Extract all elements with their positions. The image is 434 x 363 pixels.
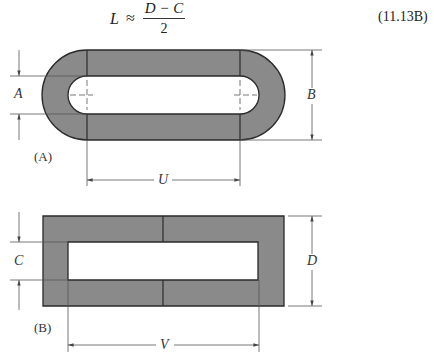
core-diagrams (0, 0, 434, 363)
label-v: V (160, 337, 169, 353)
figure-b-label: (B) (34, 320, 51, 336)
label-b: B (307, 87, 316, 103)
label-u: U (158, 172, 168, 188)
label-d: D (307, 253, 317, 269)
figure-b-frame (43, 216, 284, 306)
figure-a-label: (A) (34, 149, 52, 165)
label-c: C (14, 253, 23, 269)
figure-a-centerlines (70, 80, 257, 110)
label-a: A (14, 86, 23, 102)
